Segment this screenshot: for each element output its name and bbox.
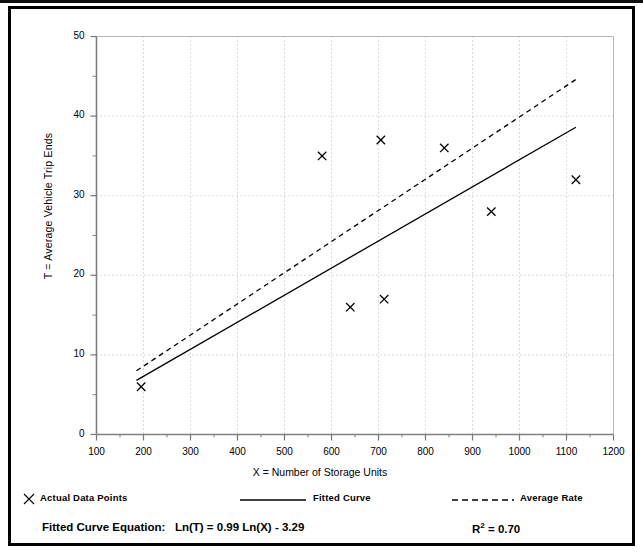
x-tick-label: 1200 bbox=[592, 446, 636, 457]
x-tick-label: 400 bbox=[216, 446, 260, 457]
data-point-marker bbox=[380, 295, 388, 303]
x-tick-label: 600 bbox=[310, 446, 354, 457]
series-lines bbox=[136, 79, 575, 380]
data-point-marker bbox=[377, 136, 385, 144]
legend-solid-line-icon bbox=[240, 498, 306, 502]
legend-label-average-rate: Average Rate bbox=[520, 492, 583, 503]
data-point-marker bbox=[346, 303, 354, 311]
data-point-marker bbox=[137, 383, 145, 391]
data-point-marker bbox=[440, 144, 448, 152]
x-tick-label: 700 bbox=[357, 446, 401, 457]
legend-label-fitted-curve: Fitted Curve bbox=[313, 492, 371, 503]
y-axis-title: T = Average Vehicle Trip Ends bbox=[42, 96, 54, 316]
data-point-marker bbox=[572, 176, 580, 184]
data-point-marker bbox=[318, 152, 326, 160]
axis-ticks bbox=[91, 37, 614, 441]
x-tick-label: 800 bbox=[404, 446, 448, 457]
legend-cross-icon bbox=[22, 492, 36, 506]
legend-dashed-line-icon bbox=[452, 498, 514, 502]
annotation-row: Fitted Curve Equation: Ln(T) = 0.99 Ln(X… bbox=[22, 519, 622, 543]
y-axis-title-wrap: T = Average Vehicle Trip Ends bbox=[0, 0, 120, 460]
x-tick-label: 500 bbox=[263, 446, 307, 457]
x-axis-title: X = Number of Storage Units bbox=[140, 466, 500, 478]
equation-label: Fitted Curve Equation: bbox=[42, 521, 165, 533]
gridlines bbox=[97, 37, 614, 435]
legend: Actual Data Points Fitted Curve Average … bbox=[22, 489, 622, 509]
axis-lines bbox=[97, 37, 614, 435]
x-tick-label: 1000 bbox=[498, 446, 542, 457]
fitted-curve-equation: Fitted Curve Equation: Ln(T) = 0.99 Ln(X… bbox=[42, 521, 304, 533]
r-squared-annotation: R2 = 0.70 bbox=[472, 521, 520, 535]
x-tick-label: 200 bbox=[122, 446, 166, 457]
legend-label-actual-data-points: Actual Data Points bbox=[40, 492, 128, 503]
x-tick-label: 1100 bbox=[545, 446, 589, 457]
data-point-markers bbox=[137, 136, 580, 391]
x-tick-label: 900 bbox=[451, 446, 495, 457]
r-squared-exponent: 2 bbox=[480, 521, 484, 530]
equation-expression: Ln(T) = 0.99 Ln(X) - 3.29 bbox=[175, 521, 304, 533]
x-tick-label: 300 bbox=[169, 446, 213, 457]
data-point-marker bbox=[487, 207, 495, 215]
chart-figure: 01020304050 1002003004005006007008009001… bbox=[0, 0, 643, 554]
r-squared-value: = 0.70 bbox=[488, 523, 520, 535]
